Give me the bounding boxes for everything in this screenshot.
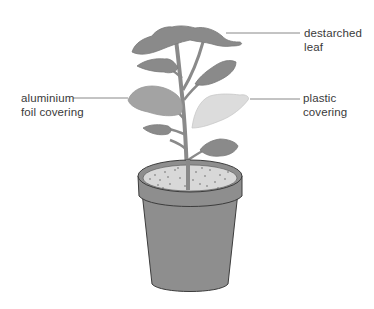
label-plastic-covering: plastic covering (303, 91, 347, 119)
aluminium-foil-leaf (128, 86, 182, 116)
leaf (195, 61, 236, 86)
leaf (137, 59, 178, 73)
plastic-covered-leaf (192, 94, 249, 128)
label-line: foil covering (21, 105, 84, 119)
leaf (143, 125, 171, 135)
label-line: plastic (303, 91, 347, 105)
leaf (200, 139, 238, 156)
label-line: leaf (304, 40, 362, 54)
label-line: aluminium (21, 91, 84, 105)
label-aluminium-foil: aluminium foil covering (21, 91, 84, 119)
label-line: destarched (304, 26, 362, 40)
label-destarched-leaf: destarched leaf (304, 26, 362, 54)
destarched-leaf (132, 26, 242, 54)
label-line: covering (303, 105, 347, 119)
